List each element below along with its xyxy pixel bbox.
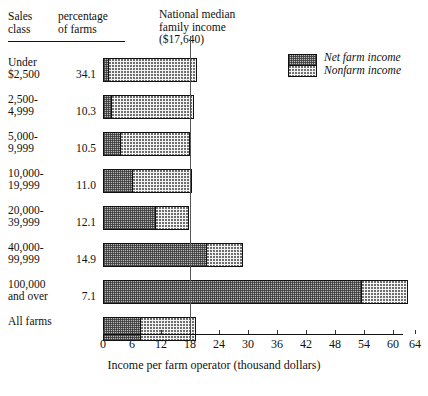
legend-label-group: Net farm income Nonfarm income — [324, 52, 401, 77]
x-axis-tick-label-64: 64 — [403, 337, 427, 352]
x-axis-tick-label-12: 12 — [149, 337, 173, 352]
x-axis-tick-18 — [190, 330, 191, 334]
row-percentage-6: 7.1 — [62, 290, 96, 302]
row-label-5: 40,000-99,999 — [8, 241, 68, 266]
x-axis-line — [103, 334, 403, 335]
row-label-line1: 5,000- — [8, 130, 68, 142]
chart-legend: Net farm income Nonfarm income — [288, 52, 401, 77]
row-label-line2: 9,999 — [8, 142, 68, 154]
column-header-percentage-line2: of farms — [58, 23, 124, 36]
median-reference-line — [190, 36, 191, 341]
bar-segment-net-farm-income — [104, 96, 111, 118]
row-label-line1: 20,000- — [8, 204, 68, 216]
row-percentage-4: 12.1 — [62, 216, 96, 228]
bar-segment-net-farm-income — [104, 133, 120, 155]
bar-segment-nonfarm-income — [132, 170, 191, 192]
stacked-bar-2 — [103, 132, 190, 156]
row-label-line1: Under — [8, 56, 68, 68]
stacked-bar-0 — [103, 58, 197, 82]
row-percentage-0: 34.1 — [62, 68, 96, 80]
column-header-percentage-line1: percentage — [58, 10, 124, 23]
x-axis-tick-48 — [335, 330, 336, 334]
row-percentage-2: 10.5 — [62, 142, 96, 154]
legend-label-nonfarm-income: Nonfarm income — [324, 65, 401, 77]
row-label-line1: 2,500- — [8, 93, 68, 105]
bar-segment-net-farm-income — [104, 170, 132, 192]
bar-segment-nonfarm-income — [108, 59, 196, 81]
x-axis-tick-6 — [132, 330, 133, 334]
x-axis-tick-label-0: 0 — [91, 337, 115, 352]
header-divider-rule — [8, 41, 125, 42]
row-label-line2: 99,999 — [8, 253, 68, 265]
x-axis-tick-label-54: 54 — [352, 337, 376, 352]
x-axis-tick-30 — [248, 330, 249, 334]
x-axis-tick-0 — [103, 330, 104, 334]
legend-swatch-nonfarm-income — [289, 65, 316, 76]
row-label-line1: 40,000- — [8, 241, 68, 253]
row-label-7: All farms — [8, 315, 68, 327]
stacked-bar-5 — [103, 243, 243, 267]
legend-swatch-group — [288, 54, 317, 77]
column-header-sales-class: Sales class — [8, 10, 56, 35]
bar-segment-nonfarm-income — [120, 133, 188, 155]
legend-label-net-farm-income: Net farm income — [324, 52, 401, 64]
row-percentage-3: 11.0 — [62, 179, 96, 191]
stacked-bar-4 — [103, 206, 189, 230]
x-axis-tick-12 — [161, 330, 162, 334]
stacked-bar-6 — [103, 280, 408, 304]
bar-segment-net-farm-income — [104, 207, 155, 229]
x-axis-tick-64 — [415, 330, 416, 334]
x-axis-tick-label-30: 30 — [236, 337, 260, 352]
row-label-4: 20,000-39,999 — [8, 204, 68, 229]
row-label-6: 100,000and over — [8, 278, 68, 303]
row-label-line2: and over — [8, 290, 68, 302]
x-axis-tick-label-36: 36 — [265, 337, 289, 352]
x-axis-label: Income per farm operator (thousand dolla… — [0, 358, 428, 373]
x-axis-tick-label-18: 18 — [178, 337, 202, 352]
bar-segment-net-farm-income — [104, 244, 206, 266]
column-header-sales-class-line1: Sales — [8, 10, 56, 23]
median-title-line3: ($17,640) — [159, 33, 269, 46]
row-label-line2: $2,500 — [8, 68, 68, 80]
median-title-line2: family income — [159, 21, 269, 34]
x-axis-tick-60 — [393, 330, 394, 334]
median-title-line1: National median — [159, 8, 269, 21]
row-label-line2: 39,999 — [8, 216, 68, 228]
stacked-bar-3 — [103, 169, 192, 193]
row-percentage-1: 10.3 — [62, 105, 96, 117]
column-header-sales-class-line2: class — [8, 23, 56, 36]
row-label-line1: 100,000 — [8, 278, 68, 290]
row-label-line1: 10,000- — [8, 167, 68, 179]
row-label-2: 5,000-9,999 — [8, 130, 68, 155]
x-axis-tick-label-6: 6 — [120, 337, 144, 352]
x-axis-tick-54 — [364, 330, 365, 334]
chart-root: Sales class percentage of farms National… — [0, 0, 428, 396]
stacked-bar-1 — [103, 95, 194, 119]
x-axis-tick-label-60: 60 — [381, 337, 405, 352]
bar-segment-net-farm-income — [104, 281, 361, 303]
x-axis-tick-label-48: 48 — [323, 337, 347, 352]
row-label-line2: 19,999 — [8, 179, 68, 191]
bar-segment-nonfarm-income — [206, 244, 241, 266]
x-axis-tick-label-42: 42 — [294, 337, 318, 352]
row-label-3: 10,000-19,999 — [8, 167, 68, 192]
x-axis-tick-label-24: 24 — [207, 337, 231, 352]
x-axis-tick-36 — [277, 330, 278, 334]
bar-segment-nonfarm-income — [111, 96, 194, 118]
row-percentage-5: 14.9 — [62, 253, 96, 265]
row-label-1: 2,500-4,999 — [8, 93, 68, 118]
row-label-line2: 4,999 — [8, 105, 68, 117]
row-label-line1: All farms — [8, 315, 68, 327]
row-label-0: Under$2,500 — [8, 56, 68, 81]
bar-segment-nonfarm-income — [155, 207, 187, 229]
median-reference-title: National median family income ($17,640) — [159, 8, 269, 46]
bar-segment-nonfarm-income — [361, 281, 407, 303]
x-axis-tick-24 — [219, 330, 220, 334]
column-header-percentage-of-farms: percentage of farms — [58, 10, 124, 35]
legend-swatch-net-farm-income — [289, 55, 316, 65]
x-axis-tick-42 — [306, 330, 307, 334]
